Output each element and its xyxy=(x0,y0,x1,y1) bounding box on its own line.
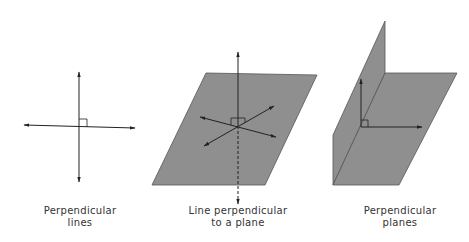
perpendicular-lines-figure xyxy=(24,72,135,182)
perpendicular-planes-figure xyxy=(333,21,457,185)
caption-line-1: Line perpendicular xyxy=(178,205,298,217)
caption-line-2: to a plane xyxy=(178,217,298,229)
caption-line-2: lines xyxy=(30,217,130,229)
caption-line-1: Perpendicular xyxy=(350,205,450,217)
caption-line-perpendicular-to-plane: Line perpendicular to a plane xyxy=(178,205,298,229)
caption-perpendicular-planes: Perpendicular planes xyxy=(350,205,450,229)
right-angle-mark xyxy=(79,119,87,127)
caption-line-1: Perpendicular xyxy=(30,205,130,217)
caption-line-2: planes xyxy=(350,217,450,229)
caption-perpendicular-lines: Perpendicular lines xyxy=(30,205,130,229)
line-perpendicular-to-plane-figure xyxy=(152,52,317,204)
